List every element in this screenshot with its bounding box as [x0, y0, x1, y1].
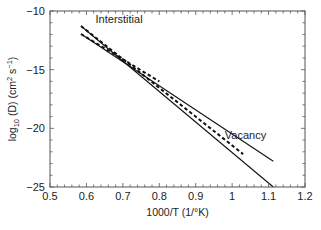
tick-labels: 0.50.60.70.80.911.11.2−10−15−20−25 [26, 5, 312, 202]
x-tick-label: 0.7 [115, 190, 130, 202]
x-tick-label: 0.8 [152, 190, 167, 202]
y-axis-label: log10 (D) (cm2 s−1) [5, 57, 21, 142]
y-tick-label: −15 [26, 64, 45, 76]
y-tick-label: −25 [26, 181, 45, 193]
plot-lines [81, 26, 273, 187]
annotations: InterstitialVacancy [96, 13, 267, 141]
series-line-vacancy [81, 34, 273, 161]
series-line-interstitial [81, 26, 273, 187]
x-tick-label: 0.9 [188, 190, 203, 202]
x-tick-label: 1.1 [261, 190, 276, 202]
x-tick-label: 1 [229, 190, 235, 202]
x-axis-label: 1000/T (1/°K) [146, 206, 208, 218]
diffusion-chart: 0.50.60.70.80.911.11.2−10−15−20−25 Inter… [0, 0, 321, 230]
y-tick-label: −10 [26, 5, 45, 17]
y-tick-label: −20 [26, 122, 45, 134]
series-line-interstitial-dashed [81, 26, 243, 154]
x-tick-label: 0.6 [79, 190, 94, 202]
annotation-vacancy: Vacancy [225, 129, 267, 141]
x-tick-label: 1.2 [297, 190, 312, 202]
annotation-interstitial: Interstitial [96, 13, 143, 25]
